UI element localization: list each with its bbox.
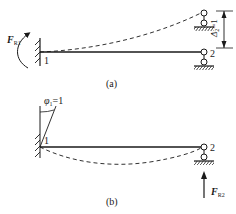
rotation-arc-icon [40, 110, 54, 112]
displacement-dimension: Δ2=1 [209, 11, 233, 48]
node-label-1: 1 [44, 135, 49, 146]
node-label-1: 1 [44, 55, 49, 66]
svg-text:Δ2=1: Δ2=1 [209, 19, 220, 38]
node-label-2: 2 [210, 142, 215, 153]
node-label-2: 2 [210, 48, 215, 59]
caption-b: (b) [106, 196, 118, 208]
reaction-label-fr1: FR1 [6, 34, 21, 46]
rotation-label: φ1=1 [44, 95, 63, 107]
fixed-support-icon [35, 106, 40, 158]
reaction-label-fr2: FR2 [210, 186, 225, 198]
caption-a: (a) [106, 78, 117, 90]
structural-diagram: Δ2=1 FR1 1 2 (a) φ1=1 [0, 0, 236, 214]
deflected-shape-a [40, 13, 201, 52]
arrowhead-icon [201, 171, 207, 179]
deflected-shape-b [40, 147, 201, 164]
fixed-support-icon [35, 38, 40, 66]
panel-b: φ1=1 FR2 1 2 (b) [35, 95, 225, 208]
panel-a: Δ2=1 FR1 1 2 (a) [6, 10, 233, 90]
